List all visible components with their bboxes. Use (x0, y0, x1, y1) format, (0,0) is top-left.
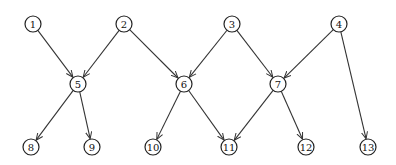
node-12: 12 (298, 139, 314, 155)
edge-6-to-10 (157, 91, 181, 139)
node-1: 1 (25, 16, 41, 32)
node-label: 8 (28, 142, 34, 153)
node-label: 12 (300, 142, 313, 153)
nodes-layer: 12345678910111213 (23, 16, 376, 155)
dag-diagram: 12345678910111213 (0, 0, 396, 165)
edge-5-to-9 (80, 92, 90, 139)
node-label: 6 (181, 79, 187, 90)
node-label: 5 (75, 79, 81, 90)
node-label: 3 (229, 19, 235, 30)
node-label: 11 (223, 142, 236, 153)
node-2: 2 (116, 16, 132, 32)
node-11: 11 (221, 139, 237, 155)
node-8: 8 (23, 139, 39, 155)
node-3: 3 (224, 16, 240, 32)
edge-1-to-5 (38, 30, 73, 77)
node-label: 9 (89, 142, 95, 153)
edge-3-to-7 (237, 30, 273, 77)
edge-5-to-8 (36, 90, 73, 140)
node-label: 4 (336, 19, 342, 30)
node-13: 13 (360, 139, 376, 155)
edge-4-to-13 (341, 32, 366, 139)
edge-7-to-12 (281, 91, 302, 139)
edge-4-to-7 (284, 30, 333, 78)
node-7: 7 (270, 76, 286, 92)
node-4: 4 (331, 16, 347, 32)
edge-2-to-5 (83, 30, 119, 77)
node-10: 10 (145, 139, 161, 155)
edge-7-to-11 (234, 90, 273, 140)
node-label: 1 (30, 19, 36, 30)
node-6: 6 (176, 76, 192, 92)
node-label: 2 (121, 19, 127, 30)
node-label: 10 (147, 142, 160, 153)
node-label: 13 (362, 142, 375, 153)
edge-3-to-6 (189, 30, 227, 77)
edge-6-to-11 (189, 91, 224, 141)
node-label: 7 (275, 79, 281, 90)
node-5: 5 (70, 76, 86, 92)
edge-2-to-6 (130, 30, 178, 78)
node-9: 9 (84, 139, 100, 155)
